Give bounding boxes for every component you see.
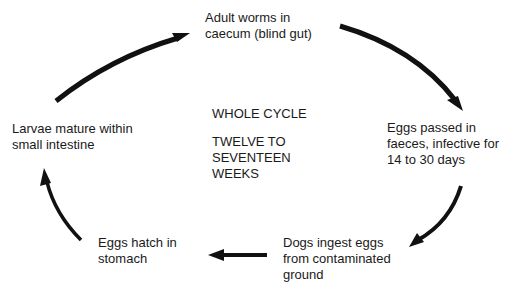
center-title: WHOLE CYCLE — [212, 106, 307, 122]
stage-text-line: from contaminated — [283, 251, 391, 267]
arrow-larvae-to-adult — [56, 33, 190, 101]
stage-eggs-hatch: Eggs hatch in stomach — [98, 235, 177, 267]
stage-text-line: Eggs passed in — [387, 120, 499, 136]
arrow-dogs-to-eggs-hatch — [208, 249, 267, 261]
stage-text-line: small intestine — [12, 137, 133, 153]
center-duration-line: WEEKS — [212, 166, 307, 182]
cycle-duration-center: WHOLE CYCLE TWELVE TO SEVENTEEN WEEKS — [212, 106, 307, 182]
stage-adult-worms: Adult worms in caecum (blind gut) — [205, 10, 312, 42]
arrow-eggs-passed-to-dogs — [409, 186, 461, 247]
stage-text-line: Adult worms in — [205, 10, 312, 26]
stage-text-line: ground — [283, 267, 391, 283]
stage-text-line: stomach — [98, 251, 177, 267]
stage-text-line: faeces, infective for — [387, 136, 499, 152]
stage-text-line: caecum (blind gut) — [205, 26, 312, 42]
arrow-adult-to-eggs-passed — [340, 26, 463, 111]
stage-dogs-ingest: Dogs ingest eggs from contaminated groun… — [283, 235, 391, 283]
spacer — [212, 122, 307, 134]
stage-eggs-passed: Eggs passed in faeces, infective for 14 … — [387, 120, 499, 168]
center-duration-line: SEVENTEEN — [212, 150, 307, 166]
center-duration-line: TWELVE TO — [212, 134, 307, 150]
stage-larvae-mature: Larvae mature within small intestine — [12, 121, 133, 153]
arrow-eggs-hatch-to-larvae — [40, 168, 81, 240]
stage-text-line: Larvae mature within — [12, 121, 133, 137]
stage-text-line: 14 to 30 days — [387, 152, 499, 168]
stage-text-line: Dogs ingest eggs — [283, 235, 391, 251]
stage-text-line: Eggs hatch in — [98, 235, 177, 251]
